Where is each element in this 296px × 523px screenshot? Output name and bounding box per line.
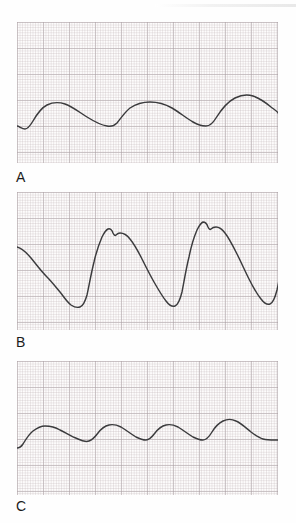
waveform-trace-c bbox=[17, 361, 278, 495]
panel-label-b: B bbox=[16, 335, 26, 349]
panel-label-c: C bbox=[16, 499, 26, 513]
waveform-panel-a bbox=[17, 22, 278, 163]
waveform-trace-b bbox=[17, 192, 278, 330]
waveform-panel-b bbox=[17, 192, 278, 330]
waveform-trace-a bbox=[17, 22, 278, 163]
waveform-panel-c bbox=[17, 361, 278, 495]
page-top-edge-artifact bbox=[155, 4, 296, 7]
figure-canvas: A B C bbox=[0, 0, 296, 523]
panel-label-a: A bbox=[16, 170, 26, 184]
